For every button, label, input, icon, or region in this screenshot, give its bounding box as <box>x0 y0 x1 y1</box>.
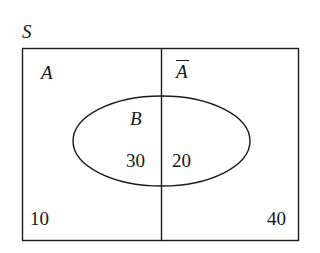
count-a-complement-only: 40 <box>267 209 286 228</box>
count-a-and-b: 30 <box>126 151 145 170</box>
count-a-only: 10 <box>30 209 49 228</box>
venn-diagram-figure: S A A B 30 20 10 40 <box>0 0 320 253</box>
set-a-complement-label: A <box>176 60 188 81</box>
set-a-complement-overbar: A <box>176 60 188 81</box>
universal-set-label: S <box>22 22 32 41</box>
count-a-complement-and-b: 20 <box>172 151 191 170</box>
set-a-label: A <box>41 63 53 82</box>
set-b-label: B <box>130 109 142 128</box>
universal-set-rectangle <box>23 49 299 241</box>
